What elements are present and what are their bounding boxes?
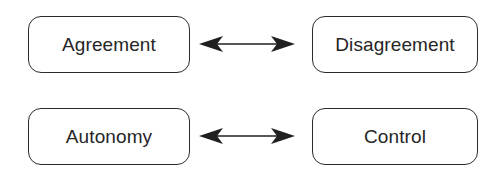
node-box-disagreement[interactable]: Disagreement (312, 16, 478, 73)
diagram-canvas: Agreement Disagreement Autonomy Control (0, 0, 501, 173)
node-box-agreement[interactable]: Agreement (28, 16, 190, 73)
node-label: Disagreement (335, 35, 454, 54)
node-box-control[interactable]: Control (312, 108, 478, 165)
node-label: Control (364, 127, 426, 146)
bidirectional-arrow-row-2 (192, 121, 302, 151)
node-label: Agreement (62, 35, 156, 54)
bidirectional-arrow-row-1 (192, 29, 302, 59)
node-box-autonomy[interactable]: Autonomy (28, 108, 190, 165)
node-label: Autonomy (66, 127, 152, 146)
